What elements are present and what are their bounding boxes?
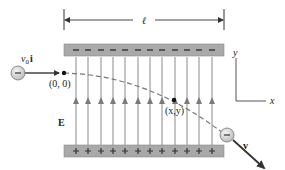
final-velocity-label: v — [243, 140, 248, 151]
incoming-electron: v0i — [11, 53, 59, 80]
field-arrowhead-icon — [73, 97, 79, 104]
field-arrowhead-icon — [110, 97, 116, 104]
y-axis-label: y — [232, 47, 238, 58]
field-arrowhead-icon — [196, 97, 202, 104]
length-dimension: ℓ — [64, 9, 224, 30]
electron-deflection-diagram: ℓ — [0, 0, 285, 170]
top-plate-negative — [64, 44, 224, 56]
field-arrowheads — [73, 97, 215, 104]
field-arrowhead-icon — [209, 97, 215, 104]
field-arrowhead-icon — [135, 97, 141, 104]
initial-velocity-label: v0i — [21, 53, 33, 66]
x-axis-label: x — [269, 95, 275, 106]
bottom-plate-positive — [64, 145, 224, 157]
origin-label: (0, 0) — [49, 78, 71, 90]
field-arrowhead-icon — [85, 97, 91, 104]
length-label: ℓ — [142, 15, 146, 26]
field-arrowhead-icon — [147, 97, 153, 104]
field-arrowhead-icon — [122, 97, 128, 104]
trajectory-path — [64, 73, 228, 137]
field-arrowhead-icon — [184, 97, 190, 104]
point-xy — [172, 98, 176, 102]
final-velocity-arrow — [233, 140, 264, 168]
origin-point — [62, 71, 66, 75]
electric-field-lines — [76, 57, 212, 145]
field-arrowhead-icon — [159, 97, 165, 104]
point-xy-label: (x,y) — [165, 105, 184, 117]
outgoing-electron: v — [220, 128, 264, 168]
field-label: E — [58, 117, 65, 128]
coordinate-axes: y x — [232, 47, 275, 106]
field-arrowhead-icon — [98, 97, 104, 104]
